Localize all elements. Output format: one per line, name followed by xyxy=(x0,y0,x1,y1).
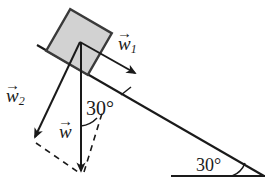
vector-label-w2-symbol: → w xyxy=(6,86,19,105)
vector-label-w1-subscript: 1 xyxy=(131,42,137,56)
angle-label-incline: 30° xyxy=(86,98,114,118)
vector-label-w2-subscript: 2 xyxy=(19,94,25,108)
angle-label-base: 30° xyxy=(196,156,221,174)
dashed-parallelogram-side-right xyxy=(84,110,103,172)
vector-label-w: → w xyxy=(59,122,72,141)
vector-arrow-accent-icon: → xyxy=(5,78,20,93)
physics-diagram-figure: → w1 → w2 → w 30° 30° xyxy=(0,0,280,187)
vector-label-w2: → w2 xyxy=(6,86,25,107)
vector-arrow-accent-icon: → xyxy=(58,114,73,129)
vector-label-w1: → w1 xyxy=(118,34,137,55)
incline-angle-arc xyxy=(81,118,97,126)
dashed-parallelogram-side-lower xyxy=(36,143,78,172)
incline-diagram-canvas xyxy=(0,0,280,187)
vector-arrow-accent-icon: → xyxy=(117,26,132,41)
vector-label-w1-symbol: → w xyxy=(118,34,131,53)
incline-tick-mark xyxy=(121,87,131,95)
vector-label-w-symbol: → w xyxy=(59,122,72,141)
